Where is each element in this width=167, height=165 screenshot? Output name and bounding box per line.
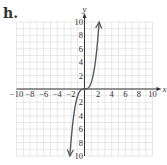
y-tick-label: 6 xyxy=(79,44,83,54)
x-tick-label: 10 xyxy=(148,89,157,99)
x-tick-label: 2 xyxy=(96,89,100,99)
y-tick-label: 10 xyxy=(75,17,84,27)
x-tick-label: −2 xyxy=(66,89,75,99)
y-axis-label: y xyxy=(82,4,87,14)
cubic-graph: xy−10−8−6−4−2246810108642246810 xyxy=(0,0,167,165)
x-axis-arrow-icon xyxy=(157,87,162,91)
x-tick-label: −10 xyxy=(10,89,23,99)
y-tick-label: 8 xyxy=(79,30,83,40)
y-tick-label: 10 xyxy=(75,151,84,161)
x-tick-label: −4 xyxy=(53,89,63,99)
y-tick-label: 6 xyxy=(79,124,83,134)
x-tick-label: 6 xyxy=(123,89,127,99)
y-tick-label: 8 xyxy=(79,138,83,148)
x-tick-label: 4 xyxy=(110,89,115,99)
x-tick-label: −8 xyxy=(26,89,35,99)
y-tick-label: 2 xyxy=(79,97,83,107)
x-tick-label: −6 xyxy=(39,89,48,99)
y-tick-label: 2 xyxy=(79,71,83,81)
x-tick-label: 8 xyxy=(137,89,141,99)
x-axis-label: x xyxy=(162,84,167,94)
